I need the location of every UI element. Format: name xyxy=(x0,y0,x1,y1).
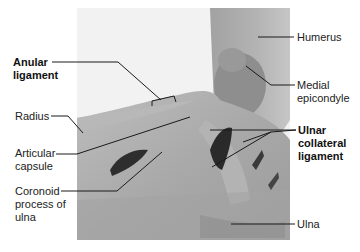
label-ulna: Ulna xyxy=(297,218,320,231)
label-ulnar-collateral-ligament: Ulnar collateral ligament xyxy=(298,124,346,163)
label-anular-ligament: Anular ligament xyxy=(13,56,58,82)
anatomy-figure: Anular ligament Radius Articular capsule… xyxy=(0,0,360,252)
label-coronoid-process: Coronoid process of ulna xyxy=(15,185,66,224)
label-humerus: Humerus xyxy=(297,31,342,44)
label-medial-epicondyle: Medial epicondyle xyxy=(297,79,350,105)
label-radius: Radius xyxy=(15,110,49,123)
label-articular-capsule: Articular capsule xyxy=(15,147,55,173)
